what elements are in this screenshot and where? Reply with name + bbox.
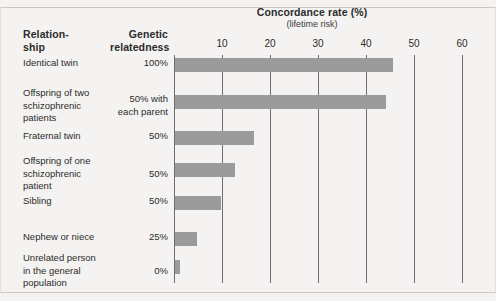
row-value-6: 0% [100,265,168,278]
row-label-6-line-2: population [23,277,143,290]
row-value-3: 50% [100,168,168,181]
row-label-3-line-2: patient [23,180,143,193]
gridline-50 [414,55,415,283]
figure-left-border [0,7,1,293]
gridline-60 [462,55,463,283]
row-value-5: 25% [100,231,168,244]
row-value-6-line-0: 0% [100,265,168,278]
row-value-1-line-1: each parent [100,106,168,119]
column-header-genetic-line1: Genetic [110,28,168,41]
row-value-4-line-0: 50% [100,195,168,208]
row-value-1: 50% witheach parent [100,93,168,118]
gridline-40 [366,55,367,283]
bar-4 [175,196,221,210]
column-header-genetic-line2: relatedness [110,41,168,54]
row-value-5-line-0: 25% [100,231,168,244]
bar-2 [175,131,254,145]
row-value-0-line-0: 100% [100,57,168,70]
chart-title: Concordance rate (%) [174,6,450,18]
row-value-2-line-0: 50% [100,130,168,143]
row-label-3-line-0: Offspring of one [23,155,143,168]
x-axis-tick-label-30: 30 [312,38,323,49]
row-value-1-line-0: 50% with [100,93,168,106]
gridline-30 [318,55,319,283]
gridline-20 [270,55,271,283]
x-axis-tick-label-50: 50 [408,38,419,49]
bar-0 [175,58,393,72]
row-value-0: 100% [100,57,168,70]
x-axis-tick-label-40: 40 [360,38,371,49]
column-header-genetic-relatedness: Genetic relatedness [110,28,168,53]
bar-1 [175,95,386,109]
x-axis-tick-label-10: 10 [216,38,227,49]
bar-5 [175,232,197,246]
plot-area: 102030405060 [174,55,486,283]
x-axis-tick-label-60: 60 [456,38,467,49]
chart-figure: Relation- ship Genetic relatedness Conco… [0,0,496,301]
row-value-4: 50% [100,195,168,208]
row-value-3-line-0: 50% [100,168,168,181]
bar-3 [175,163,235,177]
chart-subtitle: (lifetime risk) [174,19,450,29]
row-value-2: 50% [100,130,168,143]
bar-6 [175,260,180,274]
x-axis-tick-label-20: 20 [264,38,275,49]
row-label-6-line-0: Unrelated person [23,252,143,265]
figure-bottom-border [0,292,496,293]
